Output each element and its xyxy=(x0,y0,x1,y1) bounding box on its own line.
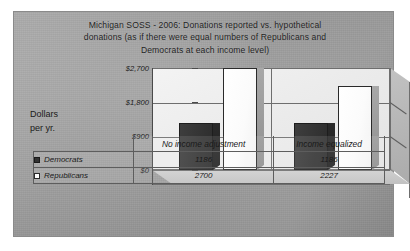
legend-item-democrats[interactable]: Democrats xyxy=(34,152,134,168)
value-democrats-income-equalized: 1186 xyxy=(274,152,385,168)
chart-panel: Michigan SOSS - 2006: Donations reported… xyxy=(14,12,393,236)
value-democrats-no-income-adjustment: 1186 xyxy=(134,152,274,168)
chart-title-line-1: Michigan SOSS - 2006: Donations reported… xyxy=(42,19,368,31)
data-table: No income adjustment Income equalized De… xyxy=(33,136,385,184)
data-table-category-row: No income adjustment Income equalized xyxy=(34,136,385,152)
table-row: Democrats 1186 1186 xyxy=(34,152,385,168)
category-header-income-equalized: Income equalized xyxy=(274,136,385,152)
category-header-no-income-adjustment: No income adjustment xyxy=(134,136,274,152)
chart-title-line-2: donations (as if there were equal number… xyxy=(42,31,368,43)
side-wall-inner-edge xyxy=(390,68,391,184)
chart-title: Michigan SOSS - 2006: Donations reported… xyxy=(42,19,368,56)
y-axis-title-line-2: per yr. xyxy=(30,122,92,136)
hollow-square-icon xyxy=(34,173,40,179)
legend-label-republicans: Republicans xyxy=(44,171,88,180)
value-republicans-income-equalized: 2227 xyxy=(274,168,385,184)
legend-label-democrats: Democrats xyxy=(44,155,83,164)
plot-floor-front-edge xyxy=(152,184,390,185)
filled-square-icon xyxy=(34,157,40,163)
y-tick-label-2700: $2,700 xyxy=(126,64,149,73)
value-republicans-no-income-adjustment: 2700 xyxy=(134,168,274,184)
y-axis-title: Dollars per yr. xyxy=(30,108,92,135)
legend-item-republicans[interactable]: Republicans xyxy=(34,168,134,184)
data-table-corner-cell xyxy=(34,136,134,152)
chart-title-line-3: Democrats at each income level) xyxy=(42,44,368,56)
plot-side-wall xyxy=(390,68,410,184)
y-tick-label-1800: $1,800 xyxy=(126,98,149,107)
y-axis-title-line-1: Dollars xyxy=(30,108,92,122)
table-row: Republicans 2700 2227 xyxy=(34,168,385,184)
